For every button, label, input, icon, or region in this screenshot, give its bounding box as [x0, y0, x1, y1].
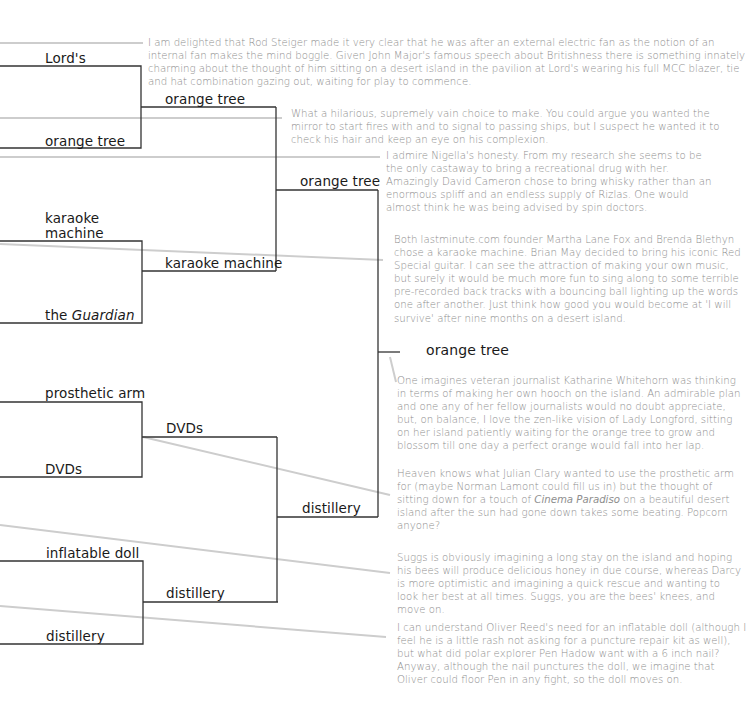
round1-entry-karaoke-machine: karaoke machine — [45, 211, 104, 241]
round1-entry-guardian: the Guardian — [45, 308, 135, 323]
round1-entry-prosthetic-arm: prosthetic arm — [45, 386, 145, 401]
comment-vain-choice: What a hilarious, supremely vain choice … — [291, 107, 741, 146]
comment-whitehorn: One imagines veteran journalist Katharin… — [397, 374, 747, 453]
label-line-2: machine — [45, 226, 104, 241]
comment-julian-clary: Heaven knows what Julian Clary wanted to… — [397, 467, 742, 532]
comment-rod-steiger: I am delighted that Rod Steiger made it … — [148, 36, 748, 88]
comment-film-title: Cinema Paradiso — [534, 494, 620, 505]
label-prefix: the — [45, 307, 72, 323]
comment-nigella: I admire Nigella's honesty. From my rese… — [386, 149, 716, 214]
label-italic: Guardian — [72, 307, 135, 323]
winner-label: orange tree — [426, 343, 509, 358]
label-line-1: karaoke — [45, 211, 104, 226]
round2-entry-karaoke-machine: karaoke machine — [165, 256, 282, 271]
round2-entry-orange-tree: orange tree — [165, 92, 245, 107]
round1-entry-dvds: DVDs — [45, 462, 82, 477]
semifinal-entry-orange-tree: orange tree — [300, 174, 380, 189]
comment-oliver-reed: I can understand Oliver Reed's need for … — [397, 621, 747, 686]
comment-suggs: Suggs is obviously imagining a long stay… — [397, 551, 742, 616]
round1-entry-lords: Lord's — [45, 51, 86, 66]
round1-entry-orange-tree: orange tree — [45, 134, 125, 149]
round1-entry-inflatable-doll: inflatable doll — [46, 546, 139, 561]
comment-karaoke: Both lastminute.com founder Martha Lane … — [394, 233, 746, 325]
round2-entry-dvds: DVDs — [166, 421, 203, 436]
round1-entry-distillery: distillery — [46, 629, 105, 644]
semifinal-entry-distillery: distillery — [302, 501, 361, 516]
round2-entry-distillery: distillery — [166, 586, 225, 601]
